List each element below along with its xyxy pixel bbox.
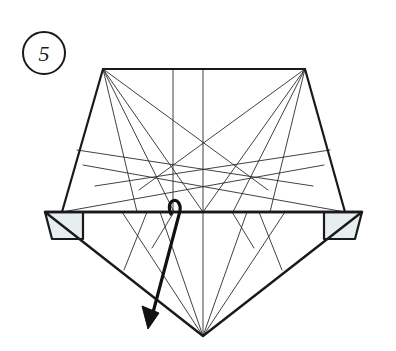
origami-diagram: 5 xyxy=(0,0,396,351)
lower-triangle-face xyxy=(45,212,362,336)
step-badge: 5 xyxy=(23,32,65,74)
upper-trapezoid-face xyxy=(62,69,345,212)
fold-arrow-head xyxy=(142,306,159,329)
origami-figure: 5 xyxy=(0,0,396,351)
step-number-label: 5 xyxy=(39,41,50,66)
